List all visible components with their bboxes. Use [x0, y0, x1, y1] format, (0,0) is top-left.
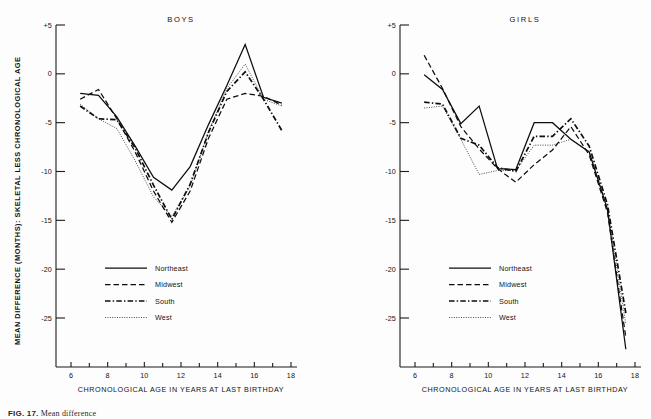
x-tick-label: 16	[594, 371, 602, 380]
x-tick-label: 10	[484, 371, 492, 380]
legend-label-west: West	[155, 313, 172, 322]
x-tick-label: 14	[214, 371, 222, 380]
x-tick-label: 12	[177, 371, 185, 380]
y-tick-label: -10	[41, 167, 52, 176]
caption-label: FIG. 17.	[8, 409, 39, 418]
series-line-west	[80, 64, 282, 216]
legend-label-northeast: Northeast	[499, 264, 532, 273]
x-tick-label: 10	[140, 371, 148, 380]
legend-label-south: South	[155, 297, 175, 306]
y-tick-label: +5	[388, 21, 397, 30]
y-tick-label: 0	[48, 69, 52, 78]
x-tick-label: 8	[450, 371, 454, 380]
y-tick-label: -20	[41, 265, 52, 274]
y-tick-label: -25	[41, 314, 52, 323]
legend-label-midwest: Midwest	[155, 280, 183, 289]
legend-label-south: South	[499, 297, 519, 306]
y-tick-label: -15	[385, 216, 396, 225]
legend-label-west: West	[499, 313, 516, 322]
x-axis-title: CHRONOLOGICAL AGE IN YEARS AT LAST BIRTH…	[78, 385, 284, 394]
panel-title: BOYS	[167, 15, 195, 24]
y-tick-label: -20	[385, 265, 396, 274]
figure-canvas: MEAN DIFFERENCE (MONTHS): SKELETAL LESS …	[0, 0, 651, 419]
series-line-midwest	[424, 55, 626, 337]
x-tick-label: 6	[413, 371, 417, 380]
series-line-west	[424, 106, 626, 324]
x-tick-label: 12	[521, 371, 529, 380]
series-line-northeast	[424, 75, 626, 349]
x-tick-label: 14	[558, 371, 566, 380]
y-tick-label: -15	[41, 216, 52, 225]
legend-label-northeast: Northeast	[155, 264, 188, 273]
figure-caption: FIG. 17. Mean difference	[8, 409, 96, 419]
x-tick-label: 18	[287, 371, 295, 380]
series-line-northeast	[80, 45, 282, 191]
panel-boys: +50-5-10-15-20-25681012141618BOYSCHRONOL…	[41, 15, 297, 394]
x-tick-label: 18	[631, 371, 639, 380]
y-tick-label: -10	[385, 167, 396, 176]
x-axis-title: CHRONOLOGICAL AGE IN YEARS AT LAST BIRTH…	[422, 385, 628, 394]
y-tick-label: -25	[385, 314, 396, 323]
y-axis-title: MEAN DIFFERENCE (MONTHS): SKELETAL LESS …	[13, 56, 22, 345]
x-tick-label: 16	[250, 371, 258, 380]
y-tick-label: -5	[45, 118, 52, 127]
y-tick-label: 0	[392, 69, 396, 78]
panel-title: GIRLS	[510, 15, 541, 24]
panel-girls: +50-5-10-15-20-25681012141618GIRLSCHRONO…	[385, 15, 641, 394]
figure-root: MEAN DIFFERENCE (MONTHS): SKELETAL LESS …	[0, 0, 651, 419]
caption-body: Mean difference	[41, 409, 97, 418]
x-tick-label: 6	[69, 371, 73, 380]
legend-label-midwest: Midwest	[499, 280, 527, 289]
y-tick-label: -5	[389, 118, 396, 127]
x-tick-label: 8	[106, 371, 110, 380]
y-tick-label: +5	[44, 21, 53, 30]
